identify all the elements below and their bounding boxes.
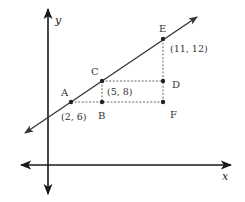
coord-c: (5, 8) xyxy=(107,86,133,97)
label-c: C xyxy=(91,66,99,77)
point-c xyxy=(100,79,104,83)
coordinate-plane-diagram: y x A B C D E F (2, 6) (5, 8) (11, 12) xyxy=(0,0,245,202)
point-d xyxy=(161,79,165,83)
y-axis-label: y xyxy=(54,14,62,27)
label-d: D xyxy=(172,79,180,90)
point-a xyxy=(69,100,73,104)
label-e: E xyxy=(159,23,166,34)
label-b: B xyxy=(98,110,105,121)
label-a: A xyxy=(60,87,69,98)
x-axis-label: x xyxy=(222,170,229,183)
point-f xyxy=(161,100,165,104)
label-f: F xyxy=(170,109,177,120)
coord-e: (11, 12) xyxy=(170,43,208,54)
point-e xyxy=(161,37,165,41)
point-b xyxy=(100,100,104,104)
coord-a: (2, 6) xyxy=(61,111,87,122)
